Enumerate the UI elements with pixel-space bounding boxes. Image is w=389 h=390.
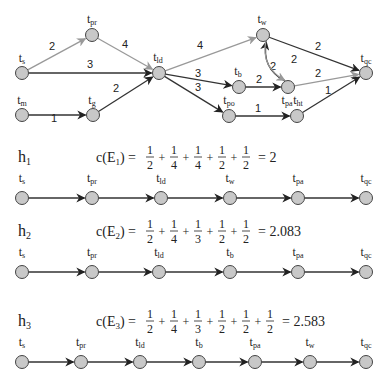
path-node-label-tld: tld [154, 245, 164, 260]
node-tb [233, 81, 246, 94]
svg-text:1: 1 [219, 217, 225, 231]
edge-weight-tld-tw: 4 [197, 39, 203, 51]
cost-equation: c(E2) =12+14+13+12+12= 2.083 [96, 217, 301, 246]
path-node-label-tw: tw [225, 171, 234, 186]
path-node-tpr [86, 192, 99, 205]
svg-text:1: 1 [171, 143, 177, 157]
fraction: 12 [146, 143, 154, 172]
svg-text:+: + [255, 315, 262, 329]
edge-weight-tg-tld: 2 [113, 82, 119, 94]
svg-text:+: + [159, 315, 166, 329]
node-label-tqc: tqc [361, 51, 372, 66]
path-node-tld [134, 356, 147, 369]
svg-text:c(E2) =: c(E2) = [96, 224, 136, 241]
cost-equation: c(E3) =12+14+13+12+12+12= 2.583 [96, 307, 325, 336]
path-node-tld [155, 192, 168, 205]
path-node-label-tpa: tpa [250, 335, 261, 350]
svg-text:2: 2 [147, 158, 153, 172]
edge-tg-to-tld [98, 77, 152, 111]
path-node-tw [224, 192, 237, 205]
node-label-tb: tb [234, 64, 241, 79]
svg-text:+: + [159, 151, 166, 165]
node-label-tpr: tpr [87, 12, 97, 27]
edge-weight-tpr-tld: 4 [122, 38, 128, 50]
node-tld [153, 67, 166, 80]
svg-text:+: + [159, 225, 166, 239]
fraction: 13 [194, 217, 202, 246]
svg-text:1: 1 [171, 307, 177, 321]
node-label-tw: tw [257, 12, 266, 27]
svg-text:2: 2 [243, 158, 249, 172]
node-label-tpo: tpo [223, 93, 234, 108]
path-node-tld [153, 266, 166, 279]
path-node-label-tqc: tqc [361, 245, 372, 260]
fraction: 12 [242, 307, 250, 336]
graph-edges: 243124332122221 [28, 37, 360, 124]
path-node-label-tqc: tqc [361, 335, 372, 350]
edge-ts-to-tpr [28, 39, 86, 70]
svg-text:+: + [183, 315, 190, 329]
svg-text:+: + [231, 151, 238, 165]
fraction: 12 [218, 143, 226, 172]
edge-weight-tb-tpa: 2 [256, 73, 262, 85]
edge-weight-tpo-tht: 1 [255, 102, 261, 114]
svg-text:1: 1 [195, 143, 201, 157]
path-node-label-tb: tb [226, 245, 233, 260]
heuristic-row-h3: h3c(E3) =12+14+13+12+12+12= 2.583tstprtl… [16, 307, 373, 369]
path-node-label-tld: tld [135, 335, 145, 350]
node-tpo [223, 110, 236, 123]
node-tpa [282, 81, 295, 94]
path-node-tqc [360, 266, 373, 279]
node-label-tht: tht [293, 93, 303, 108]
edge-weight-tld-tb: 3 [195, 67, 201, 79]
svg-text:c(E3) =: c(E3) = [96, 314, 136, 331]
svg-text:2: 2 [219, 232, 225, 246]
edge-tld-to-tw [165, 38, 256, 71]
path-node-tpr [86, 266, 99, 279]
node-tpr [86, 29, 99, 42]
svg-text:+: + [183, 151, 190, 165]
path-node-label-tpr: tpr [76, 335, 86, 350]
node-label-ts: ts [19, 51, 25, 66]
svg-text:4: 4 [171, 232, 177, 246]
node-tm [16, 109, 29, 122]
heuristic-rows: h1c(E1) =12+14+14+12+12= 2tstprtldtwtpat… [16, 143, 373, 369]
node-label-tg: tg [88, 93, 95, 108]
svg-text:2: 2 [243, 322, 249, 336]
edge-weight-ts-tld: 3 [87, 58, 93, 70]
fraction: 12 [242, 143, 250, 172]
fraction: 14 [194, 143, 202, 172]
svg-text:4: 4 [195, 158, 201, 172]
edge-weight-tld-tpo: 3 [195, 81, 201, 93]
svg-text:1: 1 [147, 217, 153, 231]
svg-text:2: 2 [147, 232, 153, 246]
svg-text:3: 3 [195, 232, 201, 246]
fraction: 12 [218, 307, 226, 336]
fraction: 12 [146, 307, 154, 336]
svg-text:+: + [231, 315, 238, 329]
svg-text:+: + [207, 315, 214, 329]
svg-text:2: 2 [267, 322, 273, 336]
path-node-tb [193, 356, 206, 369]
svg-text:1: 1 [195, 307, 201, 321]
svg-text:1: 1 [243, 307, 249, 321]
heuristic-label: h1 [18, 148, 31, 167]
path-node-label-ts: ts [19, 335, 25, 350]
node-label-tpa: tpa [282, 93, 293, 108]
svg-text:2: 2 [243, 232, 249, 246]
task-graph-figure: 243124332122221 tstprtldtmtgtwtbtpatpoth… [0, 0, 389, 390]
cost-result: = 2.083 [258, 224, 301, 239]
fraction: 12 [218, 217, 226, 246]
svg-text:1: 1 [147, 307, 153, 321]
cost-equation: c(E1) =12+14+14+12+12= 2 [96, 143, 276, 172]
path-node-ts [16, 192, 29, 205]
svg-text:c(E1) =: c(E1) = [96, 150, 136, 167]
svg-text:1: 1 [171, 217, 177, 231]
path-node-tpr [75, 356, 88, 369]
path-node-label-tpa: tpa [293, 171, 304, 186]
svg-text:2: 2 [219, 158, 225, 172]
heuristic-label: h2 [18, 222, 31, 241]
cost-result: = 2.583 [282, 314, 325, 329]
path-node-label-tqc: tqc [361, 171, 372, 186]
svg-text:+: + [207, 151, 214, 165]
